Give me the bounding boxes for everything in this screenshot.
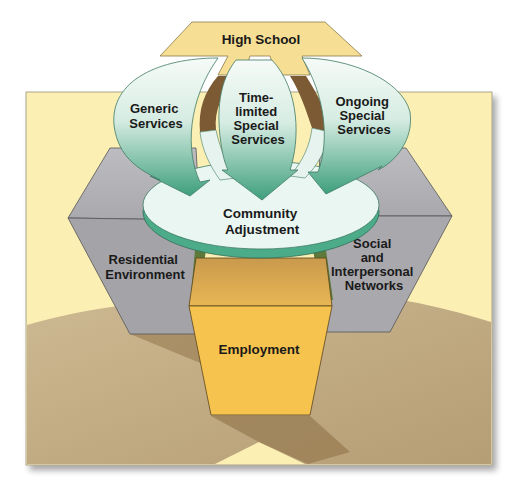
time-limited-label-line1: Time- xyxy=(239,90,273,105)
ongoing-label-line2: Special xyxy=(339,108,385,123)
residential-label-line2: Environment xyxy=(105,267,185,282)
svg-text:Community Adjustment: Community Adjustment xyxy=(223,206,301,237)
time-limited-label-line2: limited xyxy=(235,104,277,119)
employment-node: Employment xyxy=(189,258,332,415)
social-label-line1: Social xyxy=(353,236,391,251)
ongoing-label-line1: Ongoing xyxy=(335,94,388,109)
diagram-canvas: High School Residential Environment Soci… xyxy=(0,0,517,489)
time-limited-label-line3: Special xyxy=(233,118,279,133)
svg-text:Generic Services: Generic Services xyxy=(129,101,183,131)
svg-text:Residential Environment: Residential Environment xyxy=(105,252,185,282)
ongoing-label-line3: Services xyxy=(337,122,391,137)
time-limited-label-line4: Services xyxy=(231,132,285,147)
social-label-line2: and xyxy=(361,250,384,265)
residential-label-line1: Residential xyxy=(109,252,178,267)
social-label-line4: Networks xyxy=(345,278,404,293)
svg-text:Ongoing Special Se: Ongoing Special Services xyxy=(335,94,392,137)
community-label-line2: Adjustment xyxy=(225,222,300,237)
employment-label: Employment xyxy=(218,342,300,357)
community-label-line1: Community xyxy=(223,206,298,221)
generic-label-line1: Generic xyxy=(130,101,178,116)
diagram-svg: High School Residential Environment Soci… xyxy=(0,0,517,489)
high-school-label: High School xyxy=(222,32,301,47)
social-label-line3: Interpersonal xyxy=(331,264,413,279)
generic-label-line2: Services xyxy=(129,116,183,131)
svg-text:Time- limited Spec: Time- limited Special Services xyxy=(231,90,285,147)
